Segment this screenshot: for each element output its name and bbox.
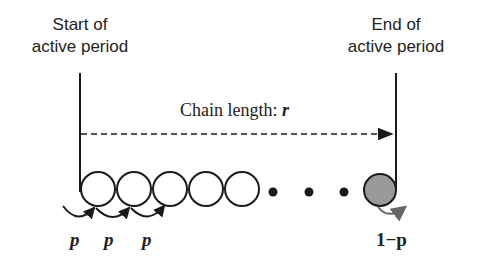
state-circle [117,172,151,206]
state-circle [189,172,223,206]
terminal-state-circle [364,174,396,206]
state-circle [81,172,115,206]
continue-arc [96,208,129,217]
open-circles [81,172,259,206]
ellipsis-dot [269,188,278,197]
continue-arc [63,206,94,217]
continue-arc [131,206,164,217]
ellipsis-dot [305,188,314,197]
continue-arcs [63,206,164,217]
ellipsis-dot [340,188,349,197]
chain-diagram [0,0,487,264]
stop-arc [378,207,404,214]
continue-probability-label: p [142,229,152,251]
ellipsis-dots [269,188,349,197]
state-circle [153,172,187,206]
state-circle [225,172,259,206]
continue-probability-label: p [104,229,114,251]
continue-probability-label: p [70,229,80,251]
stop-probability-label: 1−p [376,229,407,251]
